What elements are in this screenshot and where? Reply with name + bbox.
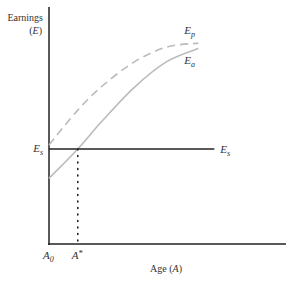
series-e-a-line	[49, 48, 198, 178]
earnings-age-diagram: Earnings (E) EpEaEsEsA0A* Age (A)	[0, 0, 286, 288]
label-layer: EpEaEsEsA0A*	[32, 24, 230, 264]
x-axis-label: Age (A)	[150, 263, 182, 275]
y-tick-label-0-subscript: s	[40, 148, 43, 157]
x-axis-label-paren-close: )	[179, 263, 182, 275]
y-axis-label-line1: Earnings	[7, 12, 43, 23]
x-tick-label-1: A*	[71, 248, 84, 261]
series-label-e-s: Es	[219, 143, 230, 158]
x-tick-label-0-subscript: 0	[50, 255, 54, 264]
series-label-e-s-subscript: s	[227, 149, 230, 158]
y-tick-label-0: Es	[32, 142, 43, 157]
x-tick-label-0: A0	[42, 249, 54, 264]
series-label-e-p-subscript: p	[190, 30, 195, 39]
series-e-p-line	[49, 43, 198, 145]
y-axis-label-paren-close: )	[39, 25, 42, 37]
x-tick-label-1-superscript: *	[79, 248, 84, 258]
y-axis-label-var: E	[32, 25, 39, 36]
x-axis-label-text: Age (	[150, 263, 173, 275]
y-axis-label-line2: (E)	[29, 25, 42, 37]
series-label-e-a: Ea	[183, 54, 195, 69]
series-label-e-a-subscript: a	[191, 60, 195, 69]
series-label-e-p: Ep	[183, 24, 195, 39]
